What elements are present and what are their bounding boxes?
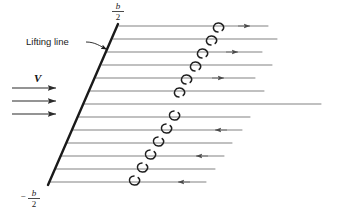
lifting-line-diagram: V Lifting line b 2 − b 2 <box>0 0 337 211</box>
upper-tip-denominator: 2 <box>116 12 121 22</box>
lower-tip-minus-sign: − <box>20 191 25 201</box>
lifting-line-label: Lifting line <box>26 36 69 47</box>
lower-tip-denominator: 2 <box>32 199 37 209</box>
lower-tip-numerator: b <box>32 188 37 198</box>
upper-tip-numerator: b <box>116 1 121 11</box>
diagram-canvas: V Lifting line b 2 − b 2 <box>0 0 337 211</box>
